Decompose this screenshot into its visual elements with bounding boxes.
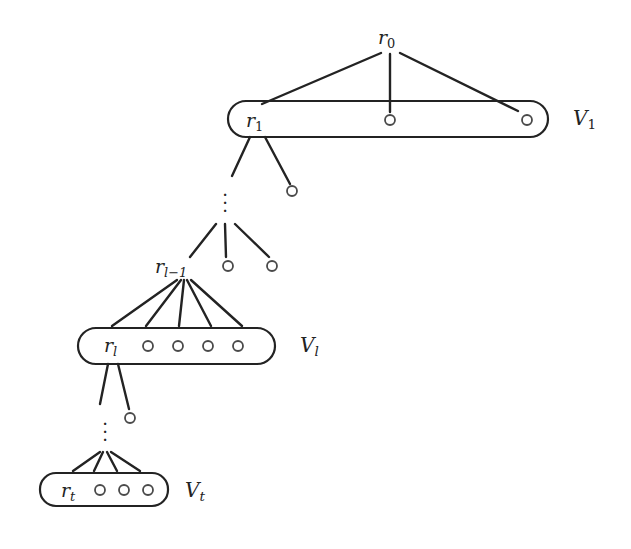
circle-rl1-row-1 (223, 261, 233, 271)
set-Vt-base: V (185, 478, 199, 502)
node-r0-base: r (378, 26, 387, 48)
edge-vdots-rl1-right (235, 224, 269, 257)
node-label-rl: rl (104, 336, 117, 359)
circle-below-r1 (287, 186, 297, 196)
edge-r1-to-circle (265, 137, 290, 184)
set-Vt-sub: t (199, 488, 204, 504)
edge-r0-v1-left (262, 53, 381, 104)
node-label-r0: r0 (378, 28, 395, 51)
set-label-V1: V1 (573, 108, 596, 132)
diagram-canvas (0, 0, 631, 549)
edges-vdots-to-rl1 (190, 224, 269, 257)
edges-r0-to-V1 (262, 53, 518, 112)
circle-vl-1 (143, 341, 153, 351)
circle-vl-2 (173, 341, 183, 351)
node-rt-sub: t (70, 489, 75, 504)
node-r1-sub: 1 (255, 119, 263, 134)
circle-vt-2 (119, 485, 129, 495)
edges-r1-down (232, 137, 290, 184)
Vt-capsule (40, 473, 168, 506)
edge-r0-v1-right (400, 53, 518, 111)
node-rl-sub: l (113, 344, 117, 359)
edge-rl1-vl-1 (112, 280, 177, 326)
vdot-3: . (219, 202, 231, 210)
set-label-Vt: Vt (185, 480, 205, 504)
node-label-rl-minus-1: rl−1 (155, 257, 187, 280)
set-Vl-sub: l (314, 343, 318, 359)
node-label-r1: r1 (246, 111, 263, 134)
edges-vdots-to-Vt (73, 452, 140, 471)
vdots-upper: . . . (219, 186, 231, 210)
node-r0-sub: 0 (387, 36, 395, 51)
V1-circles (385, 115, 532, 125)
set-V1-base: V (573, 106, 587, 130)
set-Vl-base: V (300, 333, 314, 357)
edge-rl-to-vdots (100, 364, 108, 404)
edge-r1-to-vdots (232, 137, 250, 176)
node-rl1-base: r (155, 255, 164, 277)
edge-vdots-rl1-left (190, 224, 216, 257)
circle-below-rl (125, 413, 135, 423)
set-label-Vl: Vl (300, 335, 319, 359)
node-rl1-sub: l−1 (164, 265, 187, 280)
node-rl-base: r (104, 334, 113, 356)
Vl-circles (143, 341, 243, 351)
vdot-6: . (99, 431, 111, 439)
V1-capsule (228, 101, 548, 137)
rl1-row-circles (223, 261, 277, 271)
circle-v1-mid (385, 115, 395, 125)
edges-rl-down (100, 364, 129, 409)
edges-rl1-to-Vl (112, 280, 242, 326)
circle-rl1-row-2 (267, 261, 277, 271)
edge-rl-to-circle (118, 364, 129, 409)
edge-rl1-vl-2 (146, 280, 181, 326)
circle-v1-right (522, 115, 532, 125)
tree-diagram-figure: . . . . . . r0 r1 rl−1 rl rt V1 Vl Vt (0, 0, 631, 549)
Vt-circles (95, 485, 153, 495)
vdots-lower: . . . (99, 415, 111, 439)
node-label-rt: rt (61, 481, 75, 504)
set-V1-sub: 1 (587, 116, 596, 132)
circle-vt-1 (95, 485, 105, 495)
edge-vdots-rl1-mid (225, 224, 226, 257)
circle-vl-3 (203, 341, 213, 351)
circle-vt-3 (143, 485, 153, 495)
circle-vl-4 (233, 341, 243, 351)
edge-rl1-vl-3 (179, 280, 184, 326)
node-rt-base: r (61, 479, 70, 501)
node-r1-base: r (246, 109, 255, 131)
